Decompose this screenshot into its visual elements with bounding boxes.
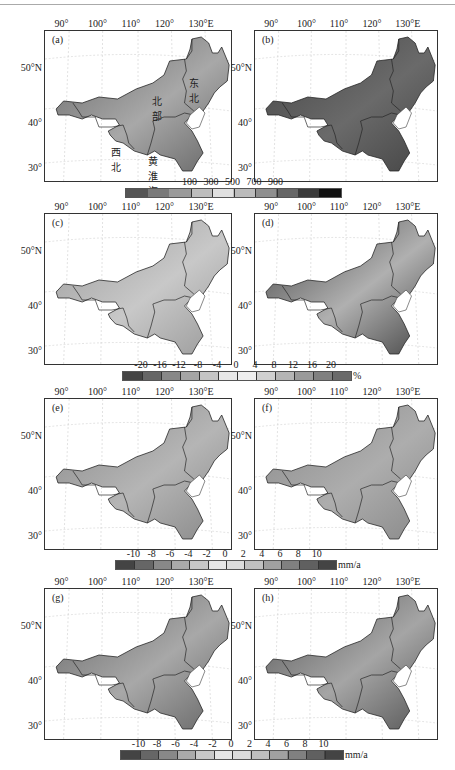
- longitude-tick-label: 90°: [55, 18, 69, 29]
- longitude-tick-label: 130°E: [395, 386, 420, 397]
- colorbar-tick: [158, 751, 159, 759]
- colorbar-tick: [140, 751, 141, 759]
- longitude-tick-label: 90°: [264, 576, 278, 587]
- colorbar-unit: mm/a: [338, 559, 361, 570]
- colorbar-tick: [277, 189, 278, 197]
- colorbar-tick: [313, 372, 314, 380]
- colorbar-tick: [232, 751, 233, 759]
- longitude-tick-label: 120°: [155, 576, 174, 587]
- longitude-tick-label: 110°: [330, 386, 349, 397]
- colorbar-tick: [153, 561, 154, 569]
- colorbar-tick: [180, 372, 181, 380]
- latitude-tick-label: 50°N: [12, 620, 42, 631]
- colorbar-tick: [325, 751, 326, 759]
- colorbar-tick-label: 2: [247, 738, 252, 749]
- latitude-tick-label: 40°: [222, 300, 252, 311]
- colorbar-tick: [234, 189, 235, 197]
- map-frame: [254, 398, 438, 550]
- colorbar-tick: [318, 561, 319, 569]
- longitude-tick-label: 100°: [88, 386, 107, 397]
- map-frame: [44, 398, 232, 550]
- colorbar-tick-label: 16: [307, 359, 317, 370]
- latitude-tick-label: 30°: [12, 530, 42, 541]
- colorbar-tick-label: 6: [278, 548, 283, 559]
- longitude-tick-label: 130°E: [395, 18, 420, 29]
- colorbar-tick-label: 8: [296, 548, 301, 559]
- colorbar-unit: %: [353, 370, 361, 381]
- longitude-tick-label: 100°: [297, 18, 316, 29]
- colorbar-tick-label: 100: [182, 176, 197, 187]
- colorbar-tick-label: -8: [147, 548, 155, 559]
- colorbar-tick-label: 4: [253, 359, 258, 370]
- longitude-tick-label: 120°: [362, 18, 381, 29]
- longitude-tick-label: 120°: [362, 576, 381, 587]
- map-frame: [254, 213, 438, 365]
- longitude-tick-label: 130°E: [189, 18, 214, 29]
- map-frame: [44, 213, 232, 365]
- panel-label: (a): [52, 34, 63, 45]
- colorbar-tick: [269, 751, 270, 759]
- colorbar-tick: [218, 372, 219, 380]
- colorbar-tick-label: -4: [213, 359, 221, 370]
- colorbar-tick: [299, 561, 300, 569]
- latitude-tick-label: 50°N: [12, 430, 42, 441]
- longitude-tick-label: 100°: [297, 576, 316, 587]
- panel-label: (h): [262, 592, 274, 603]
- latitude-tick-label: 40°: [222, 675, 252, 686]
- colorbar-tick-label: 900: [268, 176, 283, 187]
- colorbar-tick-label: -2: [208, 738, 216, 749]
- colorbar-tick-label: 10: [319, 738, 329, 749]
- longitude-tick-label: 110°: [330, 201, 349, 212]
- colorbar-tick-label: -10: [132, 738, 145, 749]
- latitude-tick-label: 40°: [222, 485, 252, 496]
- map-frame: [254, 30, 438, 182]
- latitude-tick-label: 40°: [12, 675, 42, 686]
- latitude-tick-label: 30°: [12, 720, 42, 731]
- colorbar-tick: [255, 189, 256, 197]
- colorbar-tick-label: 0: [229, 738, 234, 749]
- colorbar-tick-label: -8: [153, 738, 161, 749]
- longitude-tick-label: 90°: [55, 386, 69, 397]
- colorbar-tick: [171, 561, 172, 569]
- colorbar-tick: [294, 372, 295, 380]
- colorbar-tick: [189, 561, 190, 569]
- colorbar-tick: [275, 372, 276, 380]
- colorbar-tick-label: -20: [134, 359, 147, 370]
- map-graphic: [255, 399, 437, 549]
- panel-label: (g): [52, 592, 64, 603]
- panel-label: (c): [52, 217, 63, 228]
- longitude-tick-label: 90°: [55, 201, 69, 212]
- colorbar-tick: [263, 561, 264, 569]
- colorbar-tick-label: -6: [166, 548, 174, 559]
- longitude-tick-label: 110°: [330, 576, 349, 587]
- colorbar-tick: [142, 372, 143, 380]
- colorbar-tick-label: -10: [127, 548, 140, 559]
- longitude-tick-label: 100°: [297, 386, 316, 397]
- latitude-tick-label: 30°: [222, 720, 252, 731]
- longitude-tick-label: 90°: [264, 18, 278, 29]
- colorbar-tick-label: 700: [247, 176, 262, 187]
- colorbar-tick-label: -12: [172, 359, 185, 370]
- colorbar-tick: [214, 751, 215, 759]
- panel-label: (b): [262, 34, 274, 45]
- colorbar-unit: mm/a: [345, 749, 368, 760]
- latitude-tick-label: 50°N: [222, 62, 252, 73]
- colorbar-tick-label: 8: [272, 359, 277, 370]
- colorbar-tick: [134, 561, 135, 569]
- latitude-tick-label: 50°N: [12, 62, 42, 73]
- colorbar-tick-label: -8: [194, 359, 202, 370]
- longitude-tick-label: 110°: [122, 576, 141, 587]
- longitude-tick-label: 90°: [264, 386, 278, 397]
- colorbar-tick-label: -4: [190, 738, 198, 749]
- longitude-tick-label: 110°: [122, 201, 141, 212]
- colorbar-tick: [161, 372, 162, 380]
- map-graphic: [45, 31, 231, 181]
- longitude-tick-label: 100°: [88, 201, 107, 212]
- colorbar-tick: [306, 751, 307, 759]
- map-graphic: [45, 589, 231, 739]
- colorbar-tick: [195, 751, 196, 759]
- longitude-tick-label: 120°: [362, 201, 381, 212]
- colorbar-tick: [288, 751, 289, 759]
- longitude-tick-label: 100°: [88, 576, 107, 587]
- map-frame: [44, 588, 232, 740]
